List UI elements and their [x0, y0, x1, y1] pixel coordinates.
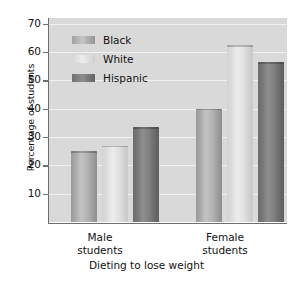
y-axis-tick-mark: [43, 194, 49, 195]
y-axis-tick-label: 10: [1, 187, 41, 199]
bar-female-hispanic: [258, 62, 284, 222]
y-axis-tick-mark: [43, 109, 49, 110]
bar-top-edge: [227, 45, 253, 47]
bar-female-white: [227, 45, 253, 222]
x-axis-group-label-male: Malestudents: [55, 231, 145, 257]
y-axis-tick-mark: [43, 52, 49, 53]
bar-top-edge: [102, 146, 128, 148]
group-label-line: Male: [55, 231, 145, 244]
y-axis-tick-label: 30: [1, 130, 41, 142]
bar-top-edge: [258, 62, 284, 64]
y-axis-tick-label: 70: [1, 17, 41, 29]
group-label-line: students: [180, 244, 270, 257]
bar-male-hispanic: [133, 127, 159, 222]
y-axis-tick-mark: [43, 137, 49, 138]
bar-chart-figure: Percentage of students 10203040506070 Bl…: [0, 0, 293, 283]
legend-swatch-black: [72, 36, 95, 44]
y-axis-tick-label: 50: [1, 73, 41, 85]
legend: BlackWhiteHispanic: [72, 32, 148, 89]
y-axis-tick-mark: [43, 24, 49, 25]
group-label-line: Female: [180, 231, 270, 244]
bar-male-white: [102, 146, 128, 223]
y-axis-tick-label: 60: [1, 45, 41, 57]
bar-top-edge: [196, 109, 222, 111]
legend-label: Black: [103, 35, 131, 46]
y-axis-tick-labels: 10203040506070: [0, 0, 41, 283]
legend-item-hispanic: Hispanic: [72, 70, 148, 86]
x-axis-title: Dieting to lose weight: [0, 259, 293, 271]
legend-item-white: White: [72, 51, 148, 67]
x-axis-group-label-female: Femalestudents: [180, 231, 270, 257]
legend-swatch-white: [72, 55, 95, 63]
legend-label: White: [103, 54, 134, 65]
y-axis-tick-mark: [43, 165, 49, 166]
bar-top-edge: [71, 151, 97, 153]
group-label-line: students: [55, 244, 145, 257]
y-axis-tick-label: 40: [1, 102, 41, 114]
y-axis-tick-mark: [43, 80, 49, 81]
bar-female-black: [196, 109, 222, 222]
bar-male-black: [71, 151, 97, 222]
legend-item-black: Black: [72, 32, 148, 48]
x-axis-line: [48, 223, 287, 224]
y-axis-tick-label: 20: [1, 158, 41, 170]
legend-label: Hispanic: [103, 73, 148, 84]
bar-top-edge: [133, 127, 159, 129]
gridline: [49, 24, 287, 25]
legend-swatch-hispanic: [72, 74, 95, 82]
